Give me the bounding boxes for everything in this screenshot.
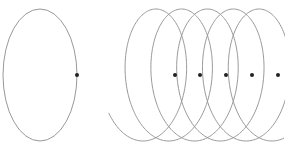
helix-marker-dot-2 — [198, 73, 202, 77]
helix-marker-dot-1 — [173, 73, 177, 77]
diagram-canvas — [0, 0, 285, 152]
helix-marker-dot-4 — [250, 73, 254, 77]
helix-curve — [109, 9, 285, 141]
helix-marker-dot-3 — [224, 73, 228, 77]
circle-ellipse — [3, 9, 77, 141]
circle-marker-dot — [75, 73, 79, 77]
diagram-svg — [0, 0, 285, 152]
helix-marker-dot-5 — [276, 73, 280, 77]
